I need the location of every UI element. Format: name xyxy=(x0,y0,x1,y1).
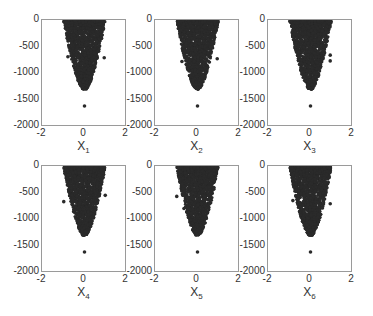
x-tick-label: -2 xyxy=(31,128,51,138)
y-tick-label: -1500 xyxy=(112,240,152,250)
y-tick-label: -1000 xyxy=(112,67,152,77)
y-tick-label: -1500 xyxy=(225,240,265,250)
x-axis-label: X2 xyxy=(182,139,212,155)
x-tick-label: -2 xyxy=(144,274,164,284)
y-tick-label: -500 xyxy=(112,41,152,51)
y-tick-label: -500 xyxy=(225,187,265,197)
y-tick-label: 0 xyxy=(225,14,265,24)
y-tick-label: 0 xyxy=(112,14,152,24)
x-tick-label: 0 xyxy=(73,128,93,138)
x-tick-label: -2 xyxy=(31,274,51,284)
y-tick-label: -1000 xyxy=(225,67,265,77)
x-tick-label: 0 xyxy=(186,128,206,138)
x-tick-label: 0 xyxy=(299,274,319,284)
y-tick-label: -500 xyxy=(112,187,152,197)
x-tick-label: -2 xyxy=(144,128,164,138)
x-axis-label: X5 xyxy=(182,285,212,301)
y-tick-label: 0 xyxy=(0,160,39,170)
x-axis-label: X3 xyxy=(295,139,325,155)
y-tick-label: -1500 xyxy=(225,94,265,104)
y-tick-label: 0 xyxy=(112,160,152,170)
x-tick-label: -2 xyxy=(257,274,277,284)
y-tick-label: -1500 xyxy=(112,94,152,104)
y-tick-label: -1000 xyxy=(112,213,152,223)
x-axis-label: X4 xyxy=(69,285,99,301)
y-tick-label: -1000 xyxy=(0,67,39,77)
y-tick-label: -500 xyxy=(0,187,39,197)
y-tick-label: -1500 xyxy=(0,94,39,104)
y-tick-label: -500 xyxy=(0,41,39,51)
x-axis-label: X6 xyxy=(295,285,325,301)
x-tick-label: 2 xyxy=(341,128,361,138)
y-tick-label: -1500 xyxy=(0,240,39,250)
x-tick-label: 0 xyxy=(299,128,319,138)
scatter-axes-6 xyxy=(267,165,352,272)
y-tick-label: -1000 xyxy=(225,213,265,223)
y-tick-label: -1000 xyxy=(0,213,39,223)
x-axis-label: X1 xyxy=(69,139,99,155)
y-tick-label: 0 xyxy=(0,14,39,24)
y-tick-label: -500 xyxy=(225,41,265,51)
x-tick-label: -2 xyxy=(257,128,277,138)
x-tick-label: 2 xyxy=(341,274,361,284)
x-tick-label: 0 xyxy=(186,274,206,284)
scatter-axes-3 xyxy=(267,19,352,126)
x-tick-label: 0 xyxy=(73,274,93,284)
y-tick-label: 0 xyxy=(225,160,265,170)
